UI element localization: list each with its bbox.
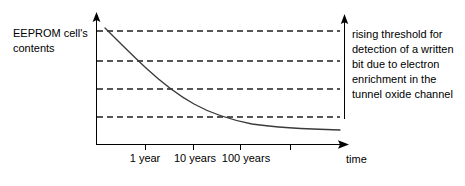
x-axis bbox=[96, 140, 349, 148]
annotation-line-1: rising threshold for bbox=[352, 27, 464, 42]
eeprom-retention-figure: EEPROM cell's contents 1 year 10 years 1… bbox=[0, 0, 465, 186]
x-axis-title: time bbox=[346, 152, 367, 167]
x-tick-label-100-years: 100 years bbox=[222, 152, 270, 164]
y-axis-label-line-2: contents bbox=[13, 41, 95, 56]
x-tick-label-10-years: 10 years bbox=[174, 152, 216, 164]
threshold-gridlines bbox=[97, 31, 340, 117]
rising-threshold-arrow bbox=[341, 14, 348, 119]
charge-decay-curve bbox=[105, 28, 340, 130]
y-axis-label: EEPROM cell's contents bbox=[13, 26, 95, 56]
annotation-line-5: tunnel oxide channel bbox=[352, 87, 464, 102]
rising-threshold-annotation: rising threshold for detection of a writ… bbox=[352, 27, 464, 102]
annotation-line-4: enrichment in the bbox=[352, 72, 464, 87]
y-axis-label-line-1: EEPROM cell's bbox=[13, 26, 95, 41]
annotation-line-3: bit due to electron bbox=[352, 57, 464, 72]
annotation-line-2: detection of a written bbox=[352, 42, 464, 57]
x-tick-label-1-year: 1 year bbox=[130, 152, 161, 164]
